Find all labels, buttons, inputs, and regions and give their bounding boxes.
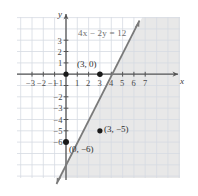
point-label-3-0: (3, 0) [77, 60, 97, 69]
point-label-3-neg5: (3, −5) [104, 125, 129, 134]
y-tick-label-neg6: −6 [54, 138, 63, 147]
y-tick-label-1: 1 [58, 59, 62, 68]
graph-figure: 4x − 2y = 12 x y −3 −2 −1 1 2 3 4 5 6 7 … [0, 0, 198, 196]
point-origin [63, 72, 68, 77]
y-tick-label-3: 3 [58, 37, 62, 46]
point-3-neg5 [97, 128, 102, 133]
x-axis-label: x [180, 77, 184, 86]
x-tick-label-neg3: −3 [26, 79, 35, 88]
y-tick-label-neg4: −4 [54, 116, 63, 125]
y-tick-label-2: 2 [58, 48, 62, 57]
point-label-0-neg6: (0, −6) [69, 145, 94, 154]
equation-label: 4x − 2y = 12 [78, 29, 127, 38]
x-tick-label-neg2: −2 [37, 79, 46, 88]
y-tick-label-neg3: −3 [54, 104, 63, 113]
point-3-0 [97, 71, 103, 77]
x-tick-label-2: 2 [86, 79, 90, 88]
x-tick-label-1: 1 [75, 79, 79, 88]
x-tick-label-5: 5 [120, 79, 124, 88]
y-tick-label-neg1: −1 [54, 79, 63, 88]
x-tick-label-3: 3 [98, 79, 102, 88]
y-tick-label-neg5: −5 [54, 127, 63, 136]
y-axis-label: y [58, 10, 62, 19]
x-tick-label-7: 7 [143, 79, 147, 88]
x-tick-label-6: 6 [132, 79, 136, 88]
x-tick-label-4: 4 [109, 79, 113, 88]
y-tick-label-neg2: −2 [54, 93, 63, 102]
